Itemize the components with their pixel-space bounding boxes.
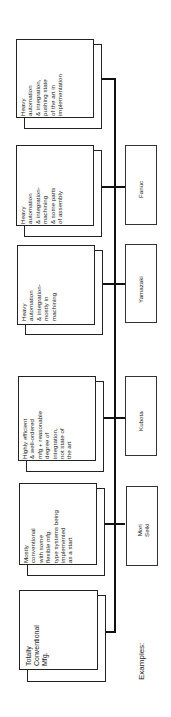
example-yamazaki: Yamazaki — [125, 244, 157, 323]
stage-5-label: Heavy automation & integration- machinin… — [19, 187, 63, 224]
example-mori-seiki: Mori Seiki — [126, 486, 158, 566]
stage-1-label: Totally Conventional Mfg. — [25, 625, 49, 666]
spine-line — [114, 78, 116, 633]
stage-3-label: Highly efficient & well-ordered mfg + re… — [21, 411, 73, 459]
example-mori-seiki-label: Mori Seiki — [136, 524, 151, 537]
stage-box-3: Highly efficient & well-ordered mfg + re… — [18, 376, 104, 472]
example-yamazaki-label: Yamazaki — [137, 276, 144, 303]
stage-4-label: Heavy automation & integration- mostly i… — [20, 284, 57, 321]
examples-label: Examples: — [137, 643, 146, 680]
connector-stage-6 — [100, 78, 116, 80]
stage-box-6: Heavy automation & integration, pushing … — [16, 39, 102, 129]
stage-2-label: Mostly conventional with some flexible m… — [22, 510, 74, 563]
example-fanuc-label: Fanuc — [137, 181, 144, 198]
stage-box-5: Heavy automation & integration- machinin… — [16, 145, 102, 237]
stage-6-label: Heavy automation & integration, pushing … — [19, 74, 63, 116]
connector-stage-5 — [101, 186, 125, 188]
example-kubota: Kubota — [125, 376, 157, 456]
example-fanuc: Fanuc — [125, 145, 157, 225]
stage-box-1: Totally Conventional Mfg. — [19, 590, 106, 682]
stage-box-2: Mostly conventional with some flexible m… — [19, 483, 105, 576]
connector-stage-2 — [104, 523, 125, 525]
connector-stage-4 — [101, 283, 125, 285]
stage-box-4: Heavy automation & integration- mostly i… — [17, 245, 103, 335]
example-kubota-label: Kubota — [137, 411, 144, 431]
connector-stage-1 — [105, 631, 116, 633]
connector-stage-3 — [103, 417, 125, 419]
